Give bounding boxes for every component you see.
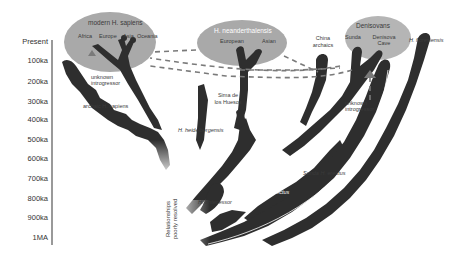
axis-tick-100ka: 100ka (8, 56, 48, 65)
label-relationships-line2: poorly resolved (172, 189, 179, 249)
label-asian-erectus: Asian H. erectus (249, 189, 289, 195)
label-unknown-2-line2: introgressor (345, 106, 374, 112)
axis-tick-200ka: 200ka (8, 77, 48, 86)
label-africa: Africa (78, 33, 92, 39)
label-sima-line2: los Huesos (211, 99, 245, 106)
label-floresiensis: H. floresiensis (409, 37, 444, 43)
label-heidelbergensis: H. heidelbergensis (178, 127, 224, 133)
axis-tick-900ka: 900ka (8, 213, 48, 222)
label-archaic-sapiens: archaic H. sapiens (83, 103, 128, 109)
label-china-line1: China (312, 35, 334, 42)
label-neanderthalensis: H. neanderthalensis (214, 27, 272, 34)
label-europe: Europe (99, 33, 117, 39)
axis-tick-600ka: 600ka (8, 154, 48, 163)
label-european: European (220, 38, 244, 44)
archaic-fade (150, 140, 180, 180)
label-asian: Asian (262, 38, 276, 44)
label-oceania: Oceania (137, 33, 158, 39)
label-china-line2: archaics (312, 42, 334, 49)
label-china-archaics: China archaics (312, 35, 334, 49)
label-asia: Asia (123, 33, 134, 39)
gene-flow-neanderthal-to-sapiens (152, 50, 196, 52)
axis-tick-1ma: 1MA (8, 233, 48, 242)
axis-tick-present: Present (8, 37, 48, 46)
label-relationships-poorly-resolved: Relationships poorly resolved (165, 189, 179, 249)
label-unknown-1-line2: introgressor (91, 80, 120, 86)
branches (62, 33, 430, 246)
axis-tick-500ka: 500ka (8, 135, 48, 144)
label-denisovans: Denisovans (356, 22, 390, 29)
label-sunda: Sunda (345, 34, 361, 40)
label-unknown-introgressor-2: unknown introgressor (345, 100, 374, 112)
label-sima-de-los-huesos: Sima de los Huesos (211, 92, 245, 106)
axis-tick-700ka: 700ka (8, 174, 48, 183)
label-sunda-erectus: Sunda H. erectus (303, 170, 346, 176)
axis-tick-800ka: 800ka (8, 194, 48, 203)
label-modern-sapiens: modern H. sapiens (88, 19, 143, 26)
label-sima-line1: Sima de (211, 92, 245, 99)
axis-tick-400ka: 400ka (8, 115, 48, 124)
label-relationships-line1: Relationships (165, 189, 172, 249)
heidelbergensis-left-branch (196, 84, 208, 150)
axis-tick-300ka: 300ka (8, 97, 48, 106)
label-antecessor: H. antecessor (198, 199, 232, 205)
label-unknown-introgressor-1: unknown introgressor (91, 74, 120, 86)
label-denisova-cave: Denisova Cave (368, 34, 400, 46)
